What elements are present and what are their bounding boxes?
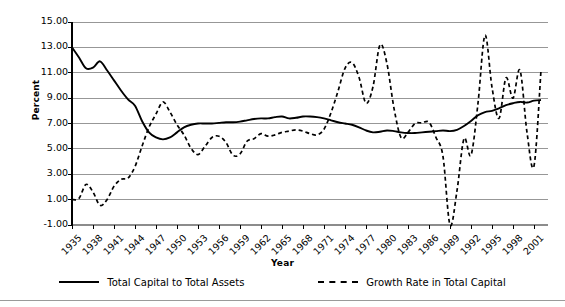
legend-item-total-capital-to-total-assets: Total Capital to Total Assets (59, 277, 244, 288)
legend-label: Total Capital to Total Assets (107, 277, 244, 288)
data-series-layer (72, 35, 541, 226)
legend-swatch-solid-line-icon (59, 281, 99, 283)
series-line-2 (72, 35, 541, 226)
series-line-1 (72, 47, 541, 139)
legend-item-growth-rate-in-total-capital: Growth Rate in Total Capital (318, 277, 505, 288)
chart-container: Percent 15.0013.0011.009.007.005.003.001… (0, 0, 565, 307)
x-axis-tick-marks (72, 225, 534, 229)
axis-lines (68, 22, 72, 225)
legend-swatch-dashed-line-icon (318, 281, 358, 283)
x-axis-title: Year (0, 258, 565, 268)
chart-legend: Total Capital to Total Assets Growth Rat… (0, 272, 565, 292)
footer-divider (0, 300, 565, 301)
legend-label: Growth Rate in Total Capital (366, 277, 505, 288)
